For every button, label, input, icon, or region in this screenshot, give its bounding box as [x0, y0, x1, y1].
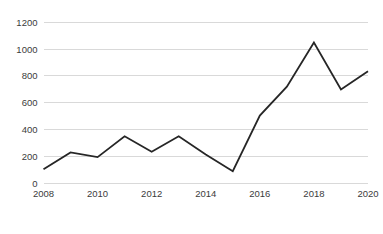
line-chart: 020040060080010001200 200820102012201420… [0, 0, 383, 234]
x-axis-tick-label: 2010 [87, 188, 108, 199]
x-axis-tick-label: 2014 [195, 188, 216, 199]
y-axis-tick-label: 1200 [16, 17, 37, 28]
y-axis-tick-label: 400 [22, 124, 38, 135]
x-axis-tick-label: 2016 [249, 188, 270, 199]
y-axis-tick-label: 1000 [16, 44, 37, 55]
y-axis-tick-label: 200 [22, 151, 38, 162]
x-axis-tick-label: 2008 [33, 188, 54, 199]
chart-canvas: 020040060080010001200 200820102012201420… [0, 0, 383, 234]
y-axis-tick-label: 600 [22, 97, 38, 108]
x-axis-tick-label: 2012 [141, 188, 162, 199]
chart-background [0, 0, 383, 234]
y-axis-tick-label: 0 [32, 178, 37, 189]
x-axis-tick-label: 2020 [357, 188, 378, 199]
x-axis-tick-label: 2018 [303, 188, 324, 199]
y-axis-tick-label: 800 [22, 70, 38, 81]
